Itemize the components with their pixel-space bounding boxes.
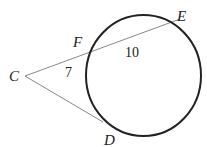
segment-length-cf: 7	[65, 65, 72, 80]
diagram-canvas: C F E D 7 10	[0, 0, 207, 147]
point-label-f: F	[72, 34, 83, 50]
point-label-e: E	[176, 8, 186, 24]
point-label-d: D	[103, 132, 115, 147]
segment-length-fe: 10	[125, 45, 139, 60]
secant-line-ce	[25, 19, 180, 76]
circle	[86, 15, 201, 136]
point-label-c: C	[9, 68, 20, 84]
